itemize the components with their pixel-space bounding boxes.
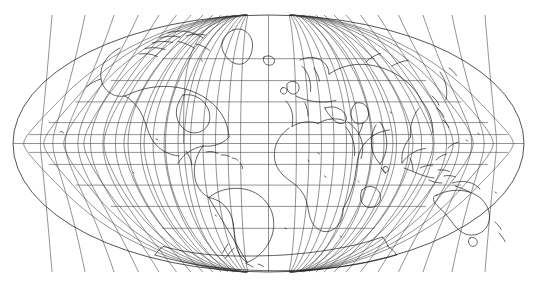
world-map-figure <box>0 0 537 289</box>
world-map-canvas <box>0 0 537 289</box>
